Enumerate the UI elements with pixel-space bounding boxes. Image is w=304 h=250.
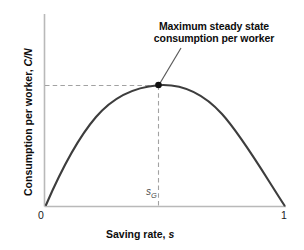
annotation-leader-line [160,48,182,84]
x-axis-label-symbol: s [168,228,174,240]
x-tick-label-0: 0 [38,209,44,221]
y-axis-label-text: Consumption per worker, [22,66,34,196]
figure-container: Maximum steady state consumption per wor… [0,0,304,250]
x-axis-label: Saving rate, s [106,228,174,240]
annotation-line-1: Maximum steady state [136,20,292,32]
annotation-line-2: consumption per worker [136,32,292,44]
y-axis-label: Consumption per worker, C/N [22,6,38,196]
y-axis-label-symbol: C/N [22,48,34,66]
x-axis-label-text: Saving rate, [106,228,168,240]
sg-subscript: G [151,191,157,200]
x-tick-label-1: 1 [281,209,287,221]
golden-rule-peak-marker [155,82,162,89]
max-consumption-annotation: Maximum steady state consumption per wor… [136,20,292,45]
consumption-curve [46,85,285,205]
golden-rule-saving-rate-label: sG [146,186,157,201]
